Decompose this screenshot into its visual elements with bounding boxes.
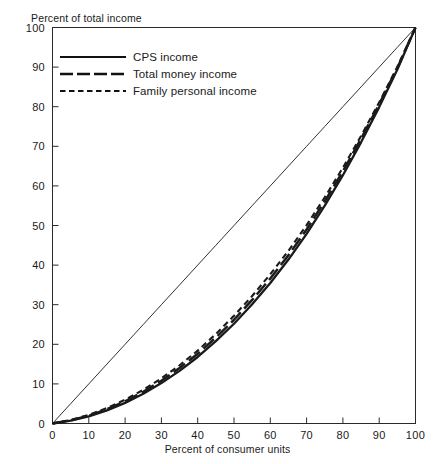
legend-item: Family personal income (60, 83, 290, 99)
legend-label: Total money income (133, 68, 237, 80)
legend-line-short-dash-icon (60, 85, 126, 97)
x-tick-label: 60 (255, 429, 285, 441)
legend-line-long-dash-icon (60, 68, 126, 80)
x-tick-label: 90 (364, 429, 394, 441)
lorenz-curve-chart: Percent of total income 0102030405060708… (0, 0, 441, 464)
x-tick-label: 70 (292, 429, 322, 441)
x-tick-label: 0 (38, 429, 68, 441)
y-tick-label: 40 (17, 259, 45, 271)
chart-legend: CPS income Total money income Family per… (60, 49, 290, 100)
y-tick-label: 60 (17, 180, 45, 192)
y-tick-label: 70 (17, 140, 45, 152)
legend-item: CPS income (60, 49, 290, 65)
legend-item: Total money income (60, 66, 290, 82)
y-tick-label: 50 (17, 220, 45, 232)
x-tick-label: 40 (183, 429, 213, 441)
y-tick-label: 100 (17, 22, 45, 34)
x-tick-label: 80 (328, 429, 358, 441)
legend-label: CPS income (133, 51, 198, 63)
legend-label: Family personal income (133, 85, 257, 97)
x-tick-label: 50 (219, 429, 249, 441)
y-tick-label: 10 (17, 378, 45, 390)
y-tick-label: 90 (17, 61, 45, 73)
x-tick-label: 100 (401, 429, 431, 441)
x-axis-title: Percent of consumer units (0, 443, 441, 455)
legend-line-solid-icon (60, 51, 126, 63)
x-tick-label: 20 (110, 429, 140, 441)
x-tick-label: 30 (146, 429, 176, 441)
y-tick-label: 30 (17, 299, 45, 311)
x-tick-label: 10 (74, 429, 104, 441)
y-tick-label: 80 (17, 101, 45, 113)
y-tick-label: 20 (17, 338, 45, 350)
